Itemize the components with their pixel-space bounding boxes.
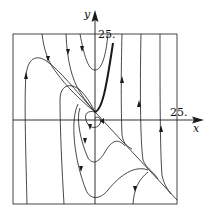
flow-arrow-icon — [83, 138, 87, 144]
y-tick-label: 25. — [98, 29, 116, 40]
y-axis-label: y — [84, 9, 90, 20]
trajectory — [140, 34, 158, 179]
trajectory — [121, 34, 132, 149]
trajectory — [25, 58, 95, 204]
flow-arrow-icon — [24, 72, 28, 79]
flow-arrow-icon — [159, 125, 163, 132]
trajectory — [42, 34, 95, 112]
separatrix-thick — [95, 43, 113, 112]
flow-arrow-icon — [120, 76, 124, 83]
x-axis-label: x — [193, 123, 199, 134]
trajectory — [60, 86, 95, 204]
trajectory — [85, 111, 100, 127]
trajectory — [66, 34, 95, 112]
flow-arrow-icon — [66, 49, 70, 55]
x-tick-label: 25. — [170, 107, 188, 118]
